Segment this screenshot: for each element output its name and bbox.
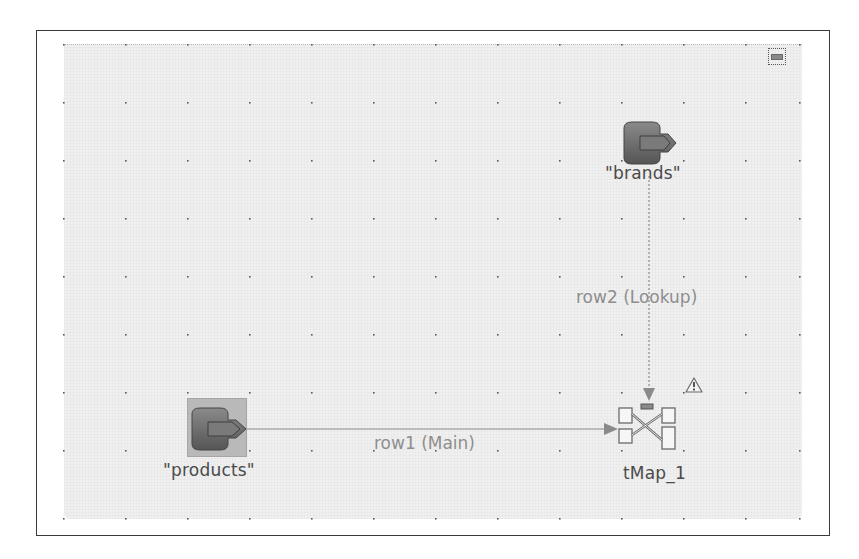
node-tmap[interactable] [617, 402, 677, 458]
db-input-icon [618, 118, 678, 166]
node-label-brands: "brands" [605, 163, 681, 183]
node-products[interactable] [188, 404, 248, 452]
node-label-tmap: tMap_1 [623, 463, 686, 483]
node-brands[interactable] [618, 118, 678, 166]
minimize-icon [771, 54, 783, 60]
minimize-button[interactable] [768, 48, 786, 65]
warning-icon[interactable] [685, 377, 703, 393]
db-input-icon [188, 404, 248, 452]
node-label-products: "products" [163, 460, 255, 480]
tmap-icon [617, 402, 677, 458]
link-label-row1: row1 (Main) [374, 433, 475, 453]
link-label-row2: row2 (Lookup) [576, 287, 697, 307]
